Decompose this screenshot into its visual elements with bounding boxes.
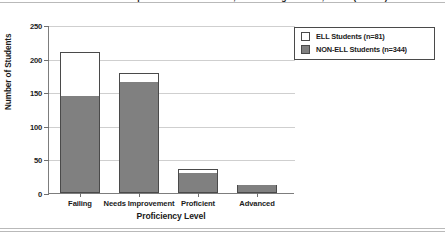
legend-item-ell[interactable]: ELL Students (n=81) — [301, 32, 429, 41]
y-tick-0 — [44, 194, 49, 195]
legend: ELL Students (n=81) NON-ELL Students (n=… — [294, 27, 435, 60]
bar-segment-nonell-failing — [60, 96, 100, 193]
plot-area: 250 200 150 100 50 0 — [48, 26, 294, 194]
x-tick-proficient — [198, 193, 199, 197]
x-tick-advanced — [257, 193, 258, 197]
y-tick-label-200: 200 — [30, 55, 42, 64]
x-tick-label-advanced: Advanced — [239, 199, 275, 208]
bar-stack-needs-improvement[interactable] — [119, 73, 159, 193]
bar-group: Failing Needs Improvement Proficient Adv… — [49, 25, 295, 193]
figure-container: Grade 10 State Comprehensive Assessment,… — [0, 0, 445, 246]
x-tick-failing — [80, 193, 81, 197]
legend-label-ell: ELL Students (n=81) — [316, 32, 385, 41]
bar-segment-ell-failing — [60, 52, 100, 96]
y-tick-label-150: 150 — [30, 89, 42, 98]
white-square-swatch-icon — [301, 32, 310, 41]
y-tick-label-100: 100 — [30, 122, 42, 131]
bar-segment-ell-needs-improvement — [119, 73, 159, 82]
x-tick-label-failing: Failing — [68, 199, 92, 208]
y-tick-label-0: 0 — [38, 189, 42, 198]
page-rule-bottom-2 — [0, 231, 445, 232]
x-axis-title: Proficiency Level — [48, 211, 294, 221]
legend-label-nonell: NON-ELL Students (n=344) — [316, 45, 407, 54]
chart-title: Grade 10 State Comprehensive Assessment,… — [0, 0, 445, 3]
bar-segment-nonell-proficient — [178, 173, 218, 193]
bar-stack-failing[interactable] — [60, 52, 100, 193]
bar-segment-nonell-needs-improvement — [119, 82, 159, 193]
y-tick-label-50: 50 — [34, 156, 42, 165]
x-tick-needs-improvement — [139, 193, 140, 197]
page-rule-bottom-1 — [0, 228, 445, 229]
bar-segment-nonell-advanced — [237, 185, 277, 193]
bar-stack-proficient[interactable] — [178, 169, 218, 193]
legend-item-nonell[interactable]: NON-ELL Students (n=344) — [301, 45, 429, 54]
y-tick-label-250: 250 — [30, 22, 42, 31]
y-axis-title: Number of Students — [4, 34, 13, 110]
chart-title-clipped: Grade 10 State Comprehensive Assessment,… — [0, 0, 445, 4]
x-tick-label-needs-improvement: Needs Improvement — [104, 199, 175, 208]
gray-square-swatch-icon — [301, 45, 310, 54]
x-tick-label-proficient: Proficient — [181, 199, 215, 208]
bar-stack-advanced[interactable] — [237, 185, 277, 193]
